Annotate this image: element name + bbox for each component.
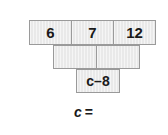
- pyramid-cell-top-1[interactable]: 6: [29, 20, 72, 45]
- pyramid-cell-top-3[interactable]: 12: [113, 20, 156, 45]
- pyramid-top-row: 6 7 12: [29, 20, 156, 45]
- pyramid-cell-middle-1[interactable]: [53, 45, 97, 69]
- pyramid-cell-bottom-1[interactable]: c–8: [76, 69, 120, 93]
- answer-variable-label: c: [74, 104, 83, 120]
- answer-equals-sign: =: [85, 104, 94, 120]
- pyramid-cell-middle-2[interactable]: [96, 45, 140, 69]
- pyramid-cell-top-2[interactable]: 7: [71, 20, 114, 45]
- pyramid-middle-row: [53, 45, 140, 69]
- pyramid-bottom-row: c–8: [76, 69, 120, 93]
- pyramid-puzzle-screenshot: 6 7 12 c–8 c=: [0, 0, 168, 135]
- answer-prompt: c=: [0, 104, 168, 120]
- number-pyramid-diagram: 6 7 12 c–8: [0, 0, 168, 100]
